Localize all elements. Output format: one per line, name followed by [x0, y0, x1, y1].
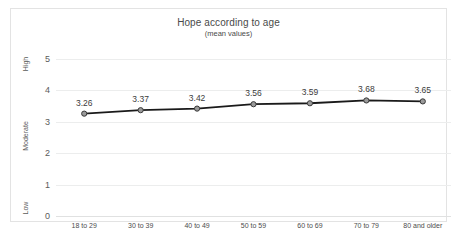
data-point-marker — [138, 108, 143, 113]
gridline-y-0 — [56, 216, 451, 217]
y-axis-tick-label: 3 — [45, 117, 50, 127]
y-axis-tick-label: 5 — [45, 54, 50, 64]
data-point-marker — [420, 99, 425, 104]
data-point-label: 3.68 — [358, 84, 375, 94]
x-axis-tick-label: 80 and older — [403, 222, 442, 229]
data-point-marker — [194, 106, 199, 111]
y-axis-band-label-moderate: Moderate — [22, 121, 29, 151]
data-point-label: 3.59 — [302, 87, 319, 97]
data-point-marker — [364, 98, 369, 103]
x-axis-tick-label: 18 to 29 — [72, 222, 97, 229]
x-axis-tick-label: 50 to 59 — [241, 222, 266, 229]
data-point-marker — [82, 111, 87, 116]
x-axis-tick-label: 60 to 69 — [297, 222, 322, 229]
y-axis-band-label-high: High — [22, 57, 29, 71]
data-point-label: 3.42 — [189, 93, 206, 103]
data-point-marker — [307, 101, 312, 106]
data-point-label: 3.56 — [245, 88, 262, 98]
y-axis-band-label-low: Low — [22, 202, 29, 215]
y-axis-tick-label: 0 — [45, 211, 50, 221]
data-point-label: 3.65 — [415, 85, 432, 95]
data-point-label: 3.26 — [76, 98, 93, 108]
y-axis-tick-label: 1 — [45, 180, 50, 190]
line-series — [56, 59, 451, 216]
gridline-y-2 — [56, 153, 451, 154]
x-axis-tick-label: 30 to 39 — [128, 222, 153, 229]
gridline-y-1 — [56, 185, 451, 186]
y-axis-tick-label: 2 — [45, 148, 50, 158]
y-axis-tick-label: 4 — [45, 85, 50, 95]
data-point-label: 3.37 — [132, 94, 149, 104]
data-point-marker — [251, 102, 256, 107]
x-axis-tick-label: 70 to 79 — [354, 222, 379, 229]
chart-container: Hope according to age (mean values) 0123… — [10, 8, 447, 222]
chart-title: Hope according to age — [11, 17, 446, 28]
gridline-y-5 — [56, 59, 451, 60]
gridline-y-3 — [56, 122, 451, 123]
chart-subtitle: (mean values) — [11, 29, 446, 38]
x-axis-tick-label: 40 to 49 — [184, 222, 209, 229]
plot-area: 012345HighModerateLow18 to 2930 to 3940 … — [56, 59, 451, 216]
